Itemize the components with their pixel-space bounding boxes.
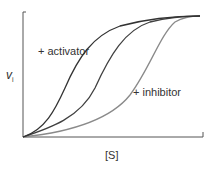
- plot-area: [0, 0, 212, 169]
- activator-label: + activator: [38, 46, 89, 57]
- inhibitor-label: + inhibitor: [133, 87, 181, 98]
- activator-curve: [23, 16, 200, 137]
- control-curve: [23, 16, 200, 137]
- sigmoid-kinetics-chart: + activator + inhibitor [S] vi: [0, 0, 212, 169]
- axes: [23, 12, 203, 137]
- inhibitor-curve: [23, 16, 200, 137]
- x-axis-label: [S]: [105, 150, 118, 161]
- y-axis-label: vi: [6, 69, 14, 83]
- y-axis-subscript: i: [12, 76, 14, 83]
